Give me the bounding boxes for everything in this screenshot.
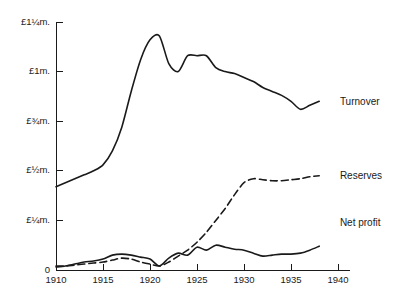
y-tick-label: 0 — [45, 264, 50, 275]
line-chart: 0£¼m.£½m.£¾m.£1m.£1¼m. 19101915192019251… — [0, 0, 410, 299]
x-tick-label: 1930 — [233, 274, 254, 285]
x-tick-label: 1940 — [327, 274, 348, 285]
y-tick-label: £1¼m. — [21, 16, 50, 27]
y-tick-label: £1m. — [29, 65, 50, 76]
series-line-net-profit — [56, 245, 319, 267]
y-tick-label: £¼m. — [26, 214, 50, 225]
x-axis: 1910191519201925193019351940 — [45, 264, 350, 285]
series-line-turnover — [56, 35, 319, 187]
series-label-reserves: Reserves — [340, 170, 382, 181]
series-labels-group: TurnoverReservesNet profit — [340, 96, 382, 228]
y-tick-label: £½m. — [26, 164, 50, 175]
x-axis-ticks: 1910191519201925193019351940 — [45, 264, 348, 285]
x-tick-label: 1915 — [92, 274, 113, 285]
chart-container: 0£¼m.£½m.£¾m.£1m.£1¼m. 19101915192019251… — [0, 0, 410, 299]
data-series-group — [56, 35, 319, 267]
y-axis: 0£¼m.£½m.£¾m.£1m.£1¼m. — [21, 16, 63, 275]
y-tick-label: £¾m. — [26, 115, 50, 126]
x-tick-label: 1935 — [280, 274, 301, 285]
x-tick-label: 1925 — [186, 274, 207, 285]
series-label-turnover: Turnover — [340, 96, 380, 107]
x-tick-label: 1920 — [139, 274, 160, 285]
y-axis-ticks: 0£¼m.£½m.£¾m.£1m.£1¼m. — [21, 16, 63, 275]
series-line-reserves — [56, 176, 319, 266]
series-label-net-profit: Net profit — [340, 217, 381, 228]
x-tick-label: 1910 — [45, 274, 66, 285]
